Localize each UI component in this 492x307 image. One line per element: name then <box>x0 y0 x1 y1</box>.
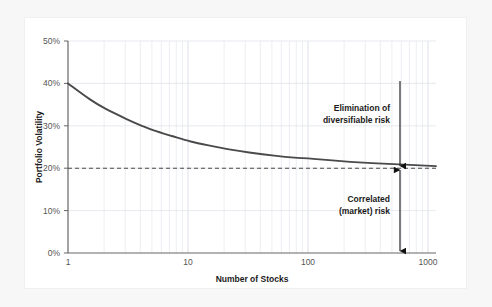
y-tick-label-40: 40% <box>43 78 60 88</box>
chart-plot-area: 50% 40% 30% 20% 10% 0% 1 10 100 1000 <box>25 18 466 288</box>
volatility-diversification-chart: 50% 40% 30% 20% 10% 0% 1 10 100 1000 <box>25 18 466 288</box>
annotation-correlated-line2: (market) risk <box>339 206 390 216</box>
x-tick-label-1: 1 <box>66 257 71 267</box>
y-tick-label-0: 0% <box>48 248 61 258</box>
gridlines-y <box>68 41 436 211</box>
minor-gridlines-x <box>104 41 422 253</box>
y-tick-label-50: 50% <box>43 36 60 46</box>
x-tick-label-10: 10 <box>183 257 193 267</box>
y-tick-label-20: 20% <box>43 163 60 173</box>
y-axis-title: Portfolio Volatility <box>34 111 44 183</box>
x-axis-title: Number of Stocks <box>216 274 289 284</box>
annotation-elimination-line1: Elimination of <box>334 103 390 113</box>
annotation-elimination-line2: diversifiable risk <box>323 115 390 125</box>
chart-card: 50% 40% 30% 20% 10% 0% 1 10 100 1000 <box>25 18 466 288</box>
annotation-correlated-line1: Correlated <box>347 194 390 204</box>
x-tick-label-100: 100 <box>301 257 315 267</box>
y-tick-label-30: 30% <box>43 121 60 131</box>
y-tick-label-10: 10% <box>43 206 60 216</box>
x-tick-label-1000: 1000 <box>419 257 438 267</box>
